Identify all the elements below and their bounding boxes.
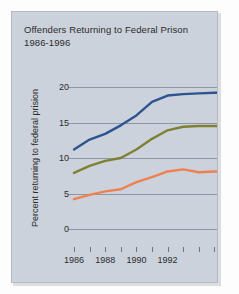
- y-tick-label: 20: [59, 82, 69, 92]
- y-tick-label: 10: [59, 153, 69, 163]
- x-tick-mark: [74, 247, 75, 252]
- x-tick-mark: [90, 247, 91, 252]
- chart-subtitle: 1986-1996: [24, 37, 214, 50]
- x-tick-mark: [121, 247, 122, 252]
- y-axis-label: Percent returning to federal prision: [28, 87, 42, 229]
- x-tick-mark: [199, 247, 200, 252]
- x-tick-label: 1986: [64, 255, 84, 265]
- x-tick-mark: [152, 247, 153, 252]
- x-tick-mark: [105, 247, 106, 252]
- x-tick-mark: [183, 247, 184, 252]
- line-series-blue: [74, 93, 218, 150]
- x-tick-label: 1992: [158, 255, 178, 265]
- y-tick-label: 5: [64, 189, 69, 199]
- chart-screenshot: Offenders Returning to Federal Prison 19…: [0, 0, 239, 294]
- x-axis: 1986198819901992: [74, 229, 218, 269]
- chart-title-block: Offenders Returning to Federal Prison 19…: [24, 24, 214, 49]
- x-tick-mark: [136, 247, 137, 252]
- x-tick-mark: [168, 247, 169, 252]
- chart-title: Offenders Returning to Federal Prison: [24, 24, 214, 37]
- plot-area: 05101520: [74, 87, 218, 229]
- series-lines: [74, 87, 218, 229]
- line-series-orange: [74, 169, 218, 199]
- x-tick-label: 1990: [126, 255, 146, 265]
- x-tick-mark: [214, 247, 215, 252]
- y-tick-label: 0: [64, 224, 69, 234]
- chart-panel: Offenders Returning to Federal Prison 19…: [11, 11, 218, 283]
- y-tick-label: 15: [59, 118, 69, 128]
- x-tick-label: 1988: [95, 255, 115, 265]
- line-series-olive: [74, 126, 218, 173]
